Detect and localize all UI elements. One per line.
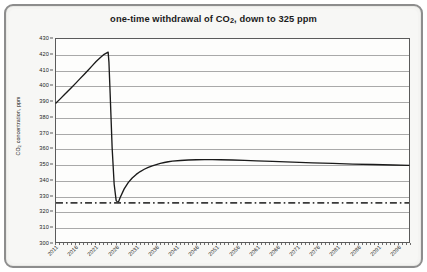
y-tick-label: 430 — [39, 35, 49, 41]
y-tick-label: 370 — [39, 130, 49, 136]
chart-title-main: one-time withdrawal of CO — [110, 14, 230, 24]
y-tick-mark — [50, 85, 53, 86]
plot-wrapper — [55, 38, 410, 243]
chart-canvas: one-time withdrawal of CO2, down to 325 … — [9, 9, 418, 263]
y-tick-mark — [50, 195, 53, 196]
x-minor-tick — [410, 243, 411, 245]
chart-frame: one-time withdrawal of CO2, down to 325 … — [4, 4, 423, 268]
y-axis-ticks: 3003103203303403503603703803904004104204… — [9, 38, 53, 243]
series-line-co2 — [56, 52, 409, 203]
y-tick-mark — [50, 243, 53, 244]
series-layer — [56, 39, 409, 242]
y-tick-label: 400 — [39, 82, 49, 88]
y-tick-label: 380 — [39, 114, 49, 120]
y-tick-mark — [50, 101, 53, 102]
y-tick-mark — [50, 211, 53, 212]
y-tick-label: 300 — [39, 240, 49, 246]
y-tick-label: 360 — [39, 145, 49, 151]
y-tick-label: 420 — [39, 51, 49, 57]
y-tick-label: 410 — [39, 67, 49, 73]
y-tick-mark — [50, 227, 53, 228]
y-tick-mark — [50, 116, 53, 117]
y-tick-mark — [50, 179, 53, 180]
y-tick-mark — [50, 53, 53, 54]
plot-area — [55, 38, 410, 243]
y-tick-label: 390 — [39, 98, 49, 104]
chart-title: one-time withdrawal of CO2, down to 325 … — [9, 14, 418, 25]
y-tick-label: 330 — [39, 193, 49, 199]
y-tick-label: 340 — [39, 177, 49, 183]
y-tick-label: 310 — [39, 224, 49, 230]
y-tick-mark — [50, 38, 53, 39]
y-tick-label: 320 — [39, 208, 49, 214]
x-axis-ticks: 2011201620212026203120362041204620512056… — [55, 243, 410, 272]
y-tick-label: 350 — [39, 161, 49, 167]
y-tick-mark — [50, 69, 53, 70]
y-tick-mark — [50, 132, 53, 133]
y-tick-mark — [50, 164, 53, 165]
y-tick-mark — [50, 148, 53, 149]
chart-title-tail: , down to 325 ppm — [234, 14, 317, 24]
